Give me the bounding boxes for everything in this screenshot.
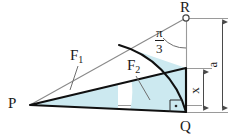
dimension-label-x: x xyxy=(188,87,201,94)
leader-line-f1 xyxy=(70,66,78,90)
region-f1-fill xyxy=(30,47,200,140)
region-label-f1: F1 xyxy=(70,48,83,63)
angle-label-pi-over-3: π 3 xyxy=(155,26,164,56)
geometry-figure: P Q R F1 F2 π 3 a x xyxy=(0,0,235,140)
region-label-f1-subscript: 1 xyxy=(78,54,83,65)
right-angle-dot xyxy=(175,105,178,108)
figure-canvas xyxy=(0,0,235,140)
region-label-f2: F2 xyxy=(127,58,140,73)
dimension-label-a: a xyxy=(206,62,219,68)
point-label-r: R xyxy=(180,0,190,15)
angle-denominator: 3 xyxy=(155,42,164,55)
angle-arc-r xyxy=(163,38,186,48)
region-label-f2-subscript: 2 xyxy=(135,64,140,75)
point-label-p: P xyxy=(8,96,16,111)
point-marker-r xyxy=(183,15,189,21)
angle-numerator: π xyxy=(155,26,164,39)
point-label-q: Q xyxy=(180,119,191,134)
